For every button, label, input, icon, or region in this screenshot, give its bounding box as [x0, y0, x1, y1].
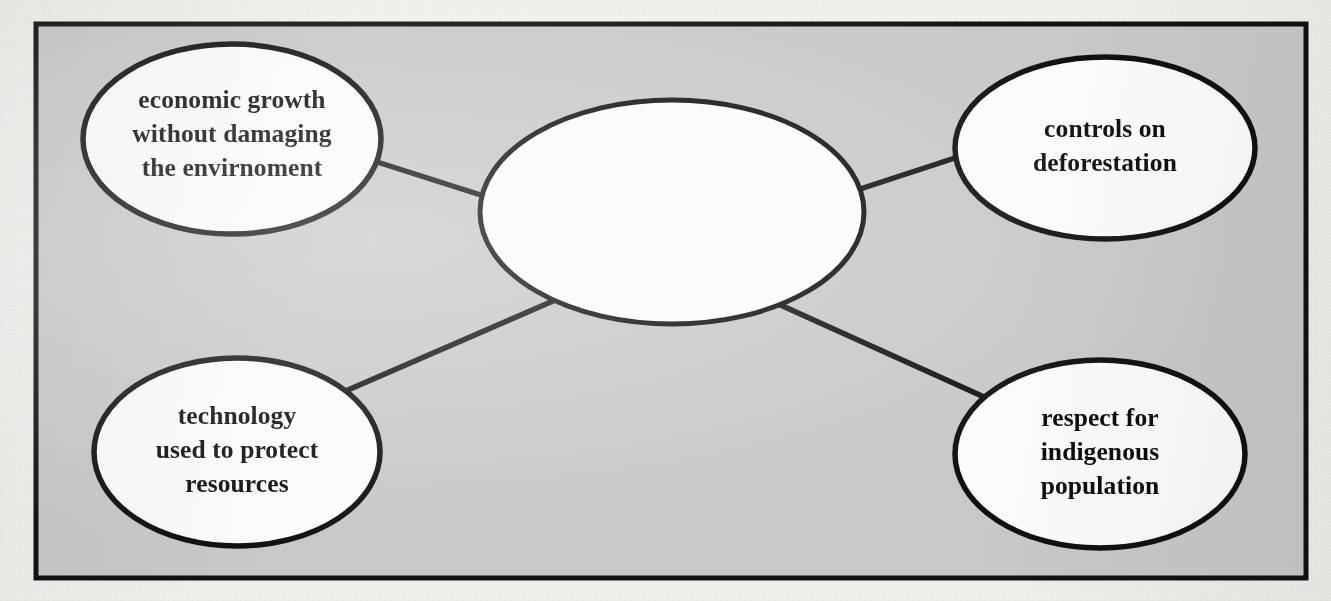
- scanned-page: economic growth without damaging the env…: [0, 0, 1331, 601]
- node-bottom-left-line-3: resources: [185, 469, 288, 498]
- node-top-right-line-2: deforestation: [1033, 148, 1177, 177]
- node-bottom-left-line-1: technology: [178, 401, 297, 430]
- node-bottom-right-line-3: population: [1041, 471, 1160, 500]
- node-bottom-right-line-1: respect for: [1041, 403, 1158, 432]
- node-bottom-right-line-2: indigenous: [1041, 437, 1160, 466]
- concept-map-diagram: economic growth without damaging the env…: [0, 0, 1331, 601]
- node-top-left-line-1: economic growth: [138, 85, 325, 114]
- node-bottom-left-line-2: used to protect: [156, 435, 319, 464]
- node-center-blank[interactable]: [480, 100, 864, 324]
- node-top-left-line-2: without damaging: [132, 119, 331, 148]
- node-top-right-line-1: controls on: [1044, 114, 1166, 143]
- node-top-left-line-3: the envirnoment: [142, 153, 323, 182]
